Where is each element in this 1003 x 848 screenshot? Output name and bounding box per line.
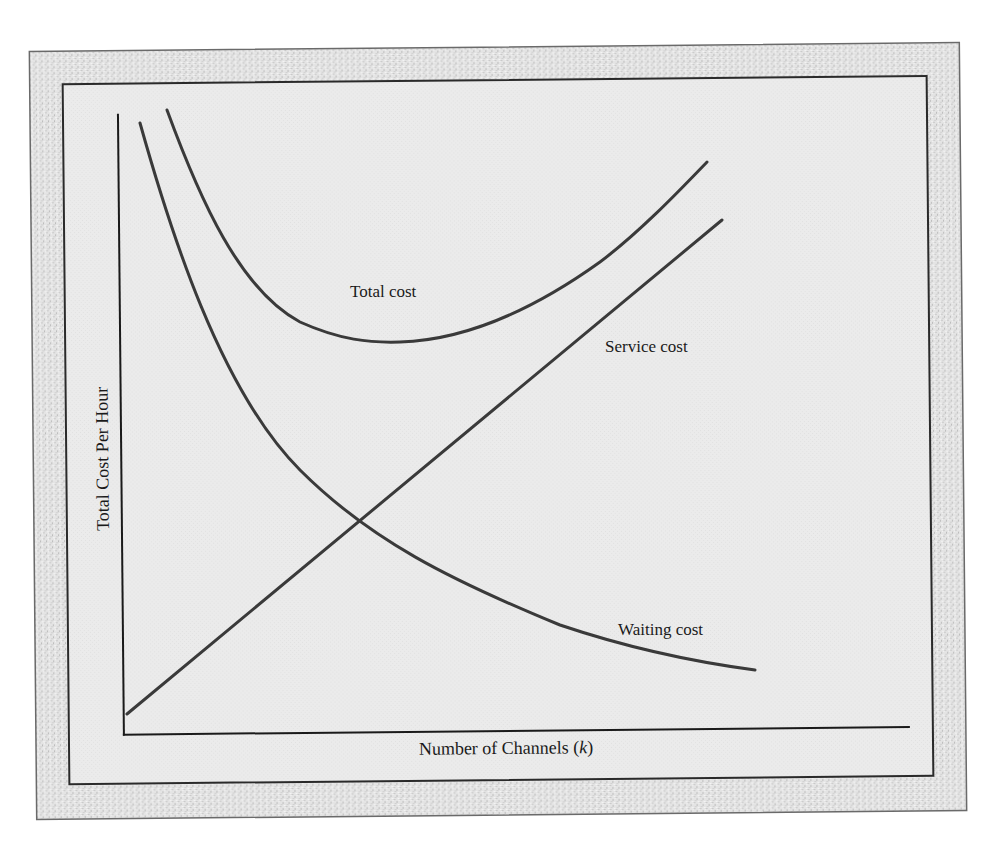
waiting-cost-label: Waiting cost — [618, 620, 703, 639]
figure: Total Cost Per Hour Number of Channels (… — [0, 0, 1003, 848]
y-axis-label: Total Cost Per Hour — [92, 387, 113, 531]
total-cost-label: Total cost — [350, 282, 417, 301]
service-cost-label: Service cost — [605, 337, 688, 356]
plot-panel — [63, 76, 934, 784]
x-axis-label: Number of Channels (k) — [419, 737, 594, 760]
